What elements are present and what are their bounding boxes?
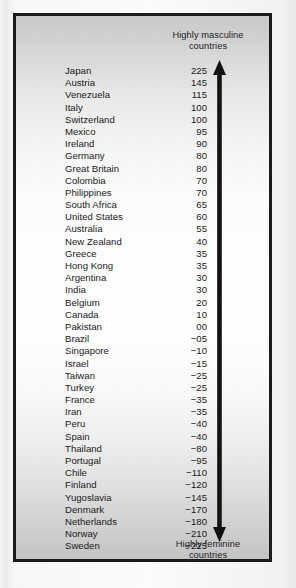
country-label: Denmark — [65, 504, 167, 516]
country-row: France−35 — [65, 394, 207, 406]
country-score: 80 — [167, 163, 207, 175]
country-row: Denmark−170 — [65, 504, 207, 516]
top-caption-line-1: Highly masculine — [148, 30, 268, 41]
country-score: −95 — [167, 455, 207, 467]
country-row: Australia55 — [65, 223, 207, 235]
country-row: South Africa65 — [65, 199, 207, 211]
country-score: −15 — [167, 358, 207, 370]
country-row: Austria145 — [65, 77, 207, 89]
country-label: Australia — [65, 223, 167, 235]
country-label: Japan — [65, 65, 167, 77]
country-row: Argentina30 — [65, 272, 207, 284]
country-score: 70 — [167, 175, 207, 187]
country-row: Philippines70 — [65, 187, 207, 199]
country-score: −110 — [167, 467, 207, 479]
figure-panel: Highly masculine countries Japan225Austr… — [13, 13, 272, 562]
country-label: Peru — [65, 418, 167, 430]
country-score: −40 — [167, 418, 207, 430]
country-label: Netherlands — [65, 516, 167, 528]
country-score: −35 — [167, 394, 207, 406]
country-row: Great Britain80 — [65, 163, 207, 175]
country-label: Ireland — [65, 138, 167, 150]
country-label: Hong Kong — [65, 260, 167, 272]
country-score: −40 — [167, 431, 207, 443]
country-score: −180 — [167, 516, 207, 528]
country-label: Philippines — [65, 187, 167, 199]
country-label: Austria — [65, 77, 167, 89]
country-label: Thailand — [65, 443, 167, 455]
country-score: −35 — [167, 406, 207, 418]
country-score: −25 — [167, 370, 207, 382]
country-label: Canada — [65, 309, 167, 321]
country-row: Greece35 — [65, 248, 207, 260]
country-label: Chile — [65, 467, 167, 479]
country-label: Yugoslavia — [65, 492, 167, 504]
country-score: 10 — [167, 309, 207, 321]
country-row: Turkey−25 — [65, 382, 207, 394]
country-label: New Zealand — [65, 236, 167, 248]
country-label: Colombia — [65, 175, 167, 187]
country-row: Israel−15 — [65, 358, 207, 370]
country-label: Iran — [65, 406, 167, 418]
country-label: Venezuela — [65, 89, 167, 101]
country-row: Finland−120 — [65, 479, 207, 491]
country-score: 65 — [167, 199, 207, 211]
country-label: Argentina — [65, 272, 167, 284]
country-label: Portugal — [65, 455, 167, 467]
country-label: Israel — [65, 358, 167, 370]
country-score: −145 — [167, 492, 207, 504]
country-label: Italy — [65, 102, 167, 114]
country-score: −170 — [167, 504, 207, 516]
country-label: Germany — [65, 150, 167, 162]
country-score: 100 — [167, 102, 207, 114]
country-label: United States — [65, 211, 167, 223]
country-row: Italy100 — [65, 102, 207, 114]
country-score: −25 — [167, 382, 207, 394]
country-label: India — [65, 284, 167, 296]
country-row: Taiwan−25 — [65, 370, 207, 382]
country-row: Netherlands−180 — [65, 516, 207, 528]
country-label: Turkey — [65, 382, 167, 394]
country-label: Great Britain — [65, 163, 167, 175]
country-row: New Zealand40 — [65, 236, 207, 248]
bottom-caption-line-2: countries — [148, 550, 268, 561]
country-row: Peru−40 — [65, 418, 207, 430]
country-score: 145 — [167, 77, 207, 89]
country-row: Germany80 — [65, 150, 207, 162]
country-row: Hong Kong35 — [65, 260, 207, 272]
top-caption-line-2: countries — [148, 41, 268, 52]
country-label: Finland — [65, 479, 167, 491]
country-score: 35 — [167, 260, 207, 272]
bottom-caption: Highly feminine countries — [148, 539, 268, 562]
country-row: India30 — [65, 284, 207, 296]
country-score: 60 — [167, 211, 207, 223]
country-score: 55 — [167, 223, 207, 235]
country-row: Thailand−80 — [65, 443, 207, 455]
country-label: Greece — [65, 248, 167, 260]
country-score: 225 — [167, 65, 207, 77]
country-score: −80 — [167, 443, 207, 455]
top-caption: Highly masculine countries — [148, 30, 268, 53]
country-row: Singapore−10 — [65, 345, 207, 357]
country-row: Brazil−05 — [65, 333, 207, 345]
country-score: 30 — [167, 272, 207, 284]
country-row: Yugoslavia−145 — [65, 492, 207, 504]
country-score: 70 — [167, 187, 207, 199]
country-row: Iran−35 — [65, 406, 207, 418]
country-row: Belgium20 — [65, 297, 207, 309]
country-row: United States60 — [65, 211, 207, 223]
country-label: Singapore — [65, 345, 167, 357]
country-row: Canada10 — [65, 309, 207, 321]
country-row: Japan225 — [65, 65, 207, 77]
country-label: Taiwan — [65, 370, 167, 382]
country-score: 40 — [167, 236, 207, 248]
country-row: Spain−40 — [65, 431, 207, 443]
country-score: 30 — [167, 284, 207, 296]
country-score-list: Japan225Austria145Venezuela115Italy100Sw… — [65, 65, 207, 553]
masculinity-index-figure: Highly masculine countries Japan225Austr… — [0, 0, 296, 588]
country-row: Mexico95 — [65, 126, 207, 138]
country-label: Pakistan — [65, 321, 167, 333]
country-row: Chile−110 — [65, 467, 207, 479]
country-score: 115 — [167, 89, 207, 101]
country-score: 35 — [167, 248, 207, 260]
